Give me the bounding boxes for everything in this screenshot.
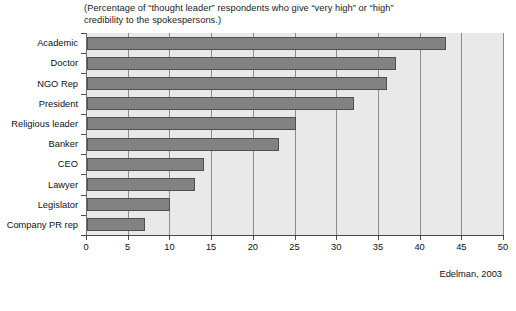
bar xyxy=(87,218,145,231)
x-axis-tick-label: 15 xyxy=(206,242,216,252)
x-axis-tick-label: 0 xyxy=(83,242,88,252)
x-axis-tick xyxy=(253,236,254,240)
x-axis-tick xyxy=(169,236,170,240)
bar xyxy=(87,57,396,70)
y-axis-tick xyxy=(81,73,86,74)
x-axis-tick xyxy=(295,236,296,240)
x-axis-tick-label: 25 xyxy=(289,242,299,252)
x-axis-tick xyxy=(128,236,129,240)
x-axis-tick xyxy=(378,236,379,240)
plot-inner xyxy=(87,33,504,235)
y-axis-label: Banker xyxy=(49,138,78,150)
y-axis-tick xyxy=(81,33,86,34)
bar-chart: AcademicDoctorNGO RepPresidentReligious … xyxy=(0,33,516,268)
x-axis-tick xyxy=(211,236,212,240)
y-axis-label: NGO Rep xyxy=(37,78,78,90)
x-axis-tick-label: 35 xyxy=(373,242,383,252)
bar xyxy=(87,97,354,110)
x-axis-tick xyxy=(461,236,462,240)
bar xyxy=(87,158,204,171)
x-axis-tick-label: 40 xyxy=(414,242,424,252)
y-axis-tick xyxy=(81,215,86,216)
x-axis-tick xyxy=(86,236,87,240)
x-axis-tick-label: 5 xyxy=(125,242,130,252)
y-axis-category-labels: AcademicDoctorNGO RepPresidentReligious … xyxy=(0,33,83,235)
gridline-50 xyxy=(503,33,504,235)
x-axis-tick-label: 45 xyxy=(456,242,466,252)
y-axis-tick xyxy=(81,114,86,115)
bar xyxy=(87,77,387,90)
cut-off-footnote xyxy=(8,303,508,311)
x-axis-tick xyxy=(420,236,421,240)
gridline-40 xyxy=(420,33,421,235)
bar xyxy=(87,117,296,130)
y-axis-tick xyxy=(81,53,86,54)
bar xyxy=(87,178,195,191)
plot-area xyxy=(86,33,504,235)
x-axis-tick xyxy=(503,236,504,240)
y-axis-label: Religious leader xyxy=(11,118,78,130)
source-credit: Edelman, 2003 xyxy=(439,269,502,279)
bar xyxy=(87,198,170,211)
chart-figure: (Percentage of “thought leader” responde… xyxy=(0,0,516,311)
x-axis-tick-label: 30 xyxy=(331,242,341,252)
y-axis-tick xyxy=(81,134,86,135)
y-axis-label: Doctor xyxy=(51,57,78,69)
y-axis-label: Lawyer xyxy=(48,179,78,191)
x-axis-tick xyxy=(336,236,337,240)
y-axis-label: CEO xyxy=(58,158,78,170)
bar xyxy=(87,138,279,151)
y-axis-tick xyxy=(81,235,86,236)
y-axis-tick xyxy=(81,174,86,175)
x-axis-tick-label: 10 xyxy=(164,242,174,252)
x-axis-tick-label: 20 xyxy=(248,242,258,252)
x-axis-tick-label: 50 xyxy=(498,242,508,252)
bar xyxy=(87,37,446,50)
y-axis-label: President xyxy=(39,98,78,110)
gridline-45 xyxy=(461,33,462,235)
chart-subtitle: (Percentage of “thought leader” responde… xyxy=(84,3,484,26)
y-axis-label: Company PR rep xyxy=(7,219,78,231)
y-axis-tick xyxy=(81,94,86,95)
y-axis-label: Academic xyxy=(37,37,78,49)
y-axis-label: Legislator xyxy=(38,199,78,211)
y-axis-tick xyxy=(81,154,86,155)
y-axis-tick xyxy=(81,195,86,196)
